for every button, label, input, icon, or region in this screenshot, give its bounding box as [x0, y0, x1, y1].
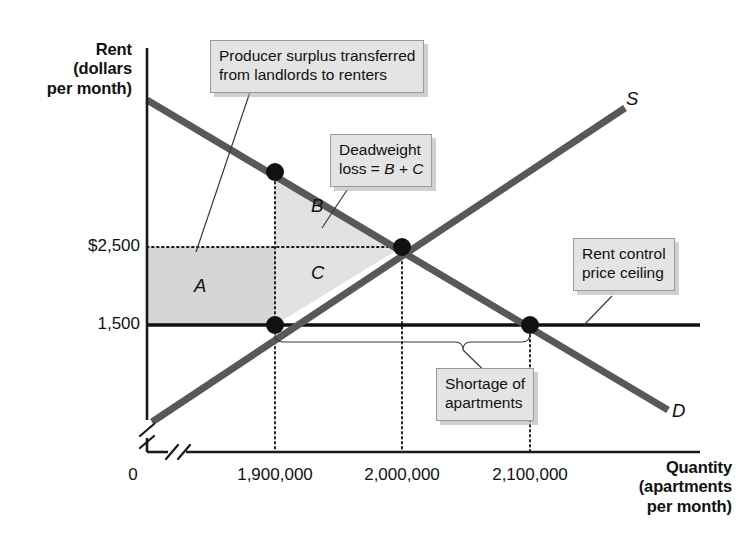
point-quantity-demanded	[521, 316, 539, 334]
supply-curve-label: S	[626, 88, 638, 110]
y-tick-2500: $2,500	[40, 236, 140, 256]
point-quantity-supplied	[266, 316, 284, 334]
demand-curve-label: D	[672, 400, 685, 422]
x-axis-title-line1: Quantity	[586, 458, 732, 477]
x-tick-1900000: 1,900,000	[205, 465, 345, 485]
callout-producer-surplus: Producer surplus transferred from landlo…	[210, 40, 424, 93]
callout-shortage-line1: Shortage of	[445, 375, 525, 394]
producer-surplus-leader-line	[196, 92, 250, 252]
callout-deadweight-line2: loss = B + C	[339, 160, 423, 179]
callout-producer-surplus-line1: Producer surplus transferred	[219, 47, 415, 66]
x-tick-2000000: 2,000,000	[332, 465, 472, 485]
rent-control-leader-line	[584, 296, 612, 325]
point-equilibrium	[393, 238, 411, 256]
callout-shortage-line2: apartments	[445, 394, 525, 413]
callout-shortage: Shortage of apartments	[436, 368, 534, 421]
callout-deadweight-line1: Deadweight	[339, 141, 423, 160]
point-demand-at-1900000	[266, 163, 284, 181]
region-a-shape	[147, 247, 275, 325]
y-axis-title-line1: Rent	[14, 40, 132, 59]
callout-rent-control-line2: price ceiling	[582, 264, 666, 283]
y-axis-title-line3: per month)	[14, 79, 132, 98]
x-tick-2100000: 2,100,000	[460, 465, 600, 485]
x-axis-title-line2: (apartments	[586, 477, 732, 496]
region-b-label: B	[311, 195, 323, 217]
callout-deadweight-term-c: C	[412, 160, 423, 177]
x-axis-title: Quantity (apartments per month)	[586, 458, 732, 516]
callout-deadweight-loss: Deadweight loss = B + C	[330, 134, 432, 187]
callout-deadweight-term-b: B	[384, 160, 394, 177]
x-axis-title-line3: per month)	[586, 497, 732, 516]
region-c-shape	[275, 247, 402, 325]
rent-control-diagram: Rent (dollars per month) $2,500 1,500 0 …	[0, 0, 743, 546]
callout-producer-surplus-line2: from landlords to renters	[219, 66, 415, 85]
region-a-label: A	[194, 275, 206, 297]
callout-deadweight-operator: +	[395, 160, 413, 177]
callout-deadweight-prefix: loss =	[339, 160, 384, 177]
callout-rent-control: Rent control price ceiling	[573, 238, 675, 291]
y-axis-title-line2: (dollars	[14, 59, 132, 78]
y-tick-1500: 1,500	[40, 314, 140, 334]
callout-rent-control-line1: Rent control	[582, 245, 666, 264]
region-c-label: C	[311, 262, 324, 284]
x-tick-origin: 0	[118, 465, 148, 485]
y-axis-title: Rent (dollars per month)	[14, 40, 132, 98]
